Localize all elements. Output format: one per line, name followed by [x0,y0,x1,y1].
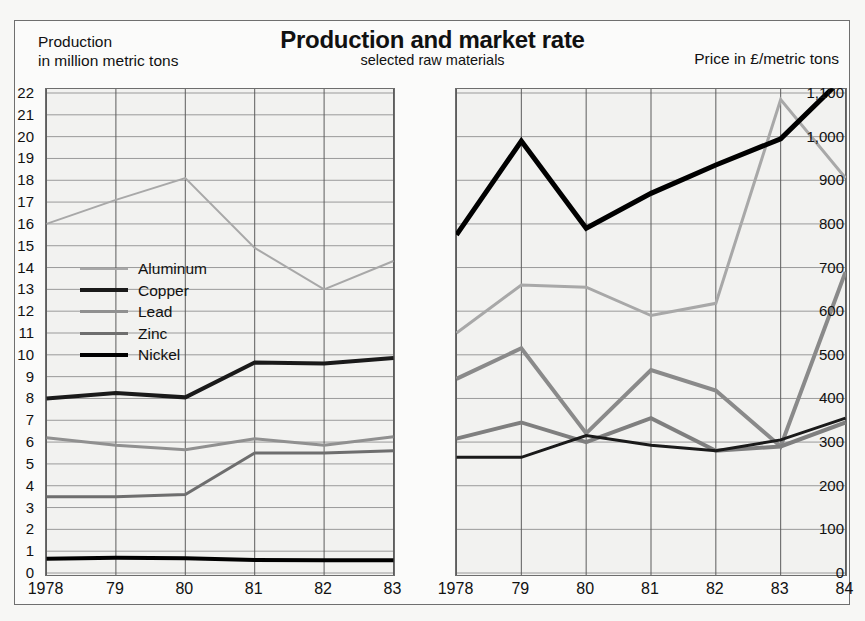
y-tick-label: 0 [792,565,844,580]
legend-item-label: Copper [138,280,189,302]
y-tick-label: 15 [17,237,34,252]
y-tick-label: 1,100 [792,85,844,100]
y-tick-label: 22 [17,85,34,100]
legend-item-label: Nickel [138,344,180,366]
y-tick-label: 100 [792,521,844,536]
y-tick-label: 400 [792,390,844,405]
right-axis-caption: Price in £/metric tons [694,50,839,68]
legend-item-nickel: Nickel [80,344,207,366]
legend-item-aluminum: Aluminum [80,258,207,280]
market-rate-chart-panel [455,88,847,576]
y-tick-label: 300 [792,434,844,449]
legend: AluminumCopperLeadZincNickel [80,258,207,366]
y-tick-label: 1 [26,543,34,558]
y-tick-label: 17 [17,194,34,209]
legend-swatch-icon [80,353,128,357]
y-tick-label: 13 [17,281,34,296]
x-tick-label: 79 [511,580,529,598]
y-tick-label: 7 [26,412,34,427]
y-tick-label: 500 [792,346,844,361]
x-tick-label: 84 [836,580,854,598]
y-tick-label: 6 [26,434,34,449]
legend-item-label: Zinc [138,323,167,345]
y-tick-label: 0 [26,565,34,580]
y-tick-label: 8 [26,390,34,405]
market-rate-plot-area [456,89,846,575]
x-tick-label: 82 [706,580,724,598]
y-tick-label: 19 [17,150,34,165]
y-tick-label: 3 [26,499,34,514]
x-tick-label: 80 [576,580,594,598]
y-tick-label: 10 [17,346,34,361]
market-rate-svg [456,89,846,575]
series-line-lead [47,437,394,450]
legend-item-label: Lead [138,301,172,323]
y-tick-label: 900 [792,172,844,187]
y-tick-label: 4 [26,477,34,492]
y-tick-label: 700 [792,259,844,274]
series-line-nickel [47,558,394,561]
y-tick-label: 11 [18,325,34,340]
legend-item-copper: Copper [80,280,207,302]
chart-screenshot: Production in million metric tons Produc… [0,0,865,621]
legend-swatch-icon [80,310,128,313]
x-tick-label: 80 [175,580,193,598]
legend-item-zinc: Zinc [80,323,207,345]
y-tick-label: 5 [26,455,34,470]
legend-swatch-icon [80,288,128,292]
y-tick-label: 21 [17,106,34,121]
y-tick-label: 16 [17,215,34,230]
legend-item-lead: Lead [80,301,207,323]
y-tick-label: 2 [26,521,34,536]
x-tick-label: 1978 [438,580,474,598]
x-tick-label: 83 [384,580,402,598]
y-tick-label: 1,000 [792,128,844,143]
y-tick-label: 600 [792,303,844,318]
y-tick-label: 800 [792,215,844,230]
y-tick-label: 12 [17,303,34,318]
series-line-zinc [47,451,394,497]
x-tick-label: 81 [641,580,659,598]
legend-swatch-icon [80,332,128,335]
x-tick-label: 1978 [28,580,64,598]
legend-swatch-icon [80,268,128,270]
y-tick-label: 9 [26,368,34,383]
y-tick-label: 14 [17,259,34,274]
x-tick-label: 83 [771,580,789,598]
x-tick-label: 79 [106,580,124,598]
production-y-axis-labels: 012345678910111213141516171819202122 [0,88,40,576]
y-tick-label: 18 [17,172,34,187]
x-tick-label: 82 [314,580,332,598]
y-tick-label: 20 [17,128,34,143]
y-tick-label: 200 [792,477,844,492]
x-tick-label: 81 [245,580,263,598]
legend-item-label: Aluminum [138,258,207,280]
